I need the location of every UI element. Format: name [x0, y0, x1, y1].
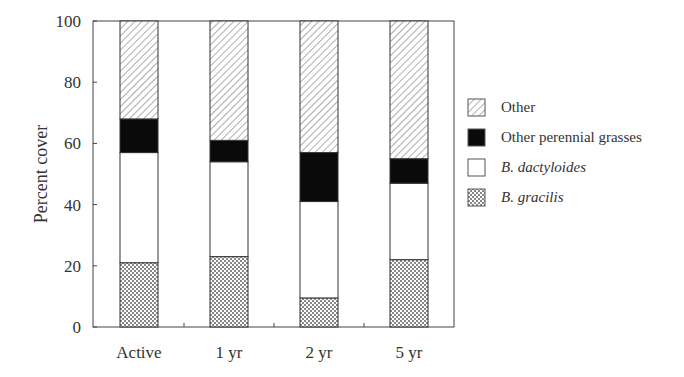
bar-segment-other	[120, 21, 158, 119]
legend-swatch	[468, 129, 485, 146]
bar-segment-other-perennial-grasses	[210, 140, 248, 161]
bar-segment-other	[300, 21, 338, 153]
bar-segment-other-perennial-grasses	[300, 153, 338, 202]
bar-segment-b-dactyloides	[390, 183, 428, 260]
bar-segment-other-perennial-grasses	[120, 119, 158, 153]
y-tick-label: 20	[64, 257, 81, 276]
x-tick-label: 1 yr	[216, 343, 243, 362]
bar-segment-b-dactyloides	[210, 162, 248, 257]
y-tick-label: 80	[64, 73, 81, 92]
legend-item: B. gracilis	[468, 189, 564, 206]
bar-segment-b-gracilis	[120, 263, 158, 327]
y-tick-label: 100	[56, 12, 82, 31]
bar-segment-b-gracilis	[390, 260, 428, 327]
bar-active: Active	[116, 21, 161, 362]
bar-5-yr: 5 yr	[390, 21, 428, 362]
bar-segment-b-dactyloides	[120, 153, 158, 263]
y-tick-label: 40	[64, 196, 81, 215]
bar-segment-other	[390, 21, 428, 159]
legend-swatch	[468, 99, 485, 116]
legend-label: Other	[501, 99, 535, 115]
x-tick-label: 5 yr	[396, 343, 423, 362]
bar-2-yr: 2 yr	[300, 21, 338, 362]
stacked-bar-chart: 020406080100 Active1 yr2 yr5 yr OtherOth…	[0, 0, 684, 377]
legend-item: Other perennial grasses	[468, 129, 642, 146]
bar-segment-b-gracilis	[300, 298, 338, 327]
legend-label: B. dactyloides	[501, 159, 586, 175]
legend-swatch	[468, 189, 485, 206]
y-tick-label: 60	[64, 134, 81, 153]
bar-segment-other	[210, 21, 248, 140]
legend-swatch	[468, 159, 485, 176]
bar-segment-b-dactyloides	[300, 202, 338, 298]
y-axis-title: Percent cover	[31, 125, 51, 223]
y-tick-label: 0	[73, 318, 82, 337]
bar-segment-b-gracilis	[210, 257, 248, 327]
legend-item: B. dactyloides	[468, 159, 586, 176]
legend: OtherOther perennial grassesB. dactyloid…	[468, 99, 642, 206]
legend-item: Other	[468, 99, 535, 116]
x-tick-label: Active	[116, 343, 161, 362]
legend-label: B. gracilis	[501, 189, 564, 205]
bar-segment-other-perennial-grasses	[390, 159, 428, 183]
bars-group: Active1 yr2 yr5 yr	[116, 21, 428, 362]
x-tick-label: 2 yr	[306, 343, 333, 362]
legend-label: Other perennial grasses	[501, 129, 642, 145]
bar-1-yr: 1 yr	[210, 21, 248, 362]
